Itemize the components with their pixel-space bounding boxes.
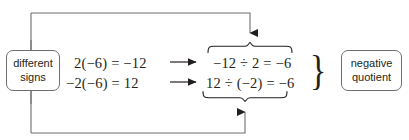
bottom-feedback-rail <box>31 112 245 133</box>
division-equation-row-2: 12 ÷ (−2) = −6 <box>206 75 294 92</box>
result-box-negative-quotient: negative quotient <box>341 50 402 91</box>
condition-label-line-2: signs <box>20 71 46 85</box>
multiplication-equation-row-1: 2(−6) = −12 <box>74 55 147 72</box>
overbrace-row-1 <box>208 43 292 53</box>
condition-box-different-signs: different signs <box>6 50 60 91</box>
signs-quotient-diagram: different signs 2(−6) = −12 −2(−6) = 12 … <box>0 0 409 140</box>
grouping-brace: } <box>310 43 326 98</box>
division-equation-row-1: −12 ÷ 2 = −6 <box>213 55 291 72</box>
condition-label-line-1: different <box>13 57 53 71</box>
underbrace-row-2 <box>203 92 287 102</box>
result-label-line-2: quotient <box>352 71 391 85</box>
multiplication-equation-row-2: −2(−6) = 12 <box>66 75 139 92</box>
top-feedback-rail <box>31 13 250 33</box>
result-label-line-1: negative <box>351 57 393 71</box>
